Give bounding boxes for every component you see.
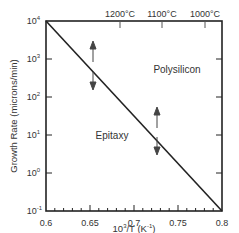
- svg-text:0.6: 0.6: [40, 218, 53, 228]
- svg-text:100: 100: [27, 167, 41, 178]
- svg-text:0.75: 0.75: [169, 218, 187, 228]
- top-ticks: [120, 21, 205, 28]
- growth-rate-chart: 1200°C 1100°C 1000°C 104 103 102 101 100…: [0, 0, 239, 233]
- arrow-up-icon: [90, 41, 96, 49]
- arrow-pair-1: [90, 41, 96, 90]
- boundary-line: [46, 21, 222, 211]
- arrow-down-icon: [90, 82, 96, 90]
- epitaxy-label: Epitaxy: [96, 130, 129, 141]
- svg-text:103: 103: [27, 53, 41, 64]
- x-major-ticks: [90, 205, 178, 211]
- svg-text:102: 102: [27, 91, 41, 102]
- arrow-pair-2: [154, 107, 160, 155]
- svg-text:0.65: 0.65: [81, 218, 99, 228]
- svg-text:101: 101: [27, 129, 41, 140]
- x-axis-label: 103/T (K-1): [113, 223, 156, 233]
- arrow-up-icon: [154, 107, 160, 115]
- y-tick-labels: 104 103 102 101 100 10-1: [27, 15, 43, 216]
- svg-text:10-1: 10-1: [27, 205, 43, 216]
- y-axis-label: Growth Rate (microns/min): [8, 59, 19, 173]
- top-label-1200: 1200°C: [105, 9, 136, 19]
- top-label-1100: 1100°C: [147, 9, 177, 19]
- arrow-down-icon: [154, 147, 160, 155]
- top-label-1000: 1000°C: [190, 9, 221, 19]
- svg-text:104: 104: [27, 15, 41, 26]
- polysilicon-label: Polysilicon: [153, 64, 200, 75]
- svg-text:0.8: 0.8: [216, 218, 229, 228]
